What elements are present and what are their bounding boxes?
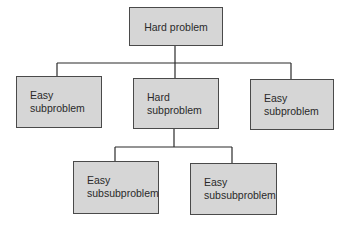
node-easy-subsubproblem-right: Easy subsubproblem <box>190 163 277 215</box>
node-easy-subsubproblem-left: Easy subsubproblem <box>73 161 159 214</box>
node-label: Easy subproblem <box>264 92 319 118</box>
node-hard-problem: Hard problem <box>129 7 223 46</box>
node-label: Easy subproblem <box>30 89 85 115</box>
node-label: Easy subsubproblem <box>204 176 276 202</box>
node-easy-subproblem-left: Easy subproblem <box>16 76 102 128</box>
node-easy-subproblem-right: Easy subproblem <box>250 79 334 130</box>
node-label: Easy subsubproblem <box>87 174 159 200</box>
node-label: Hard problem <box>130 21 222 34</box>
node-hard-subproblem: Hard subproblem <box>133 78 219 129</box>
tree-diagram: Hard problem Easy subproblem Hard subpro… <box>0 0 351 228</box>
node-label: Hard subproblem <box>147 91 202 117</box>
